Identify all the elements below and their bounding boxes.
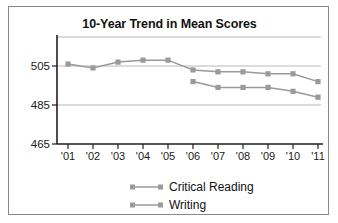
legend-marker-critical-reading-end: [158, 185, 163, 190]
chart-plot-area: 505 485 465 '01 '02 '03 '04 '05 '06 '07 …: [9, 7, 330, 216]
legend-marker-critical-reading-start: [130, 185, 135, 190]
data-point: [315, 79, 320, 84]
data-point: [315, 95, 320, 100]
data-point: [215, 85, 220, 90]
data-point: [240, 69, 245, 74]
xtick-label-09: '09: [261, 150, 275, 162]
xtick-label-07: '07: [211, 150, 225, 162]
legend-label-critical-reading: Critical Reading: [169, 180, 254, 194]
xtick-label-11: '11: [311, 150, 325, 162]
data-point: [240, 85, 245, 90]
data-point: [140, 58, 145, 63]
xtick-label-06: '06: [186, 150, 200, 162]
data-point: [265, 85, 270, 90]
chart-legend: Critical Reading Writing: [130, 180, 254, 212]
data-point: [115, 60, 120, 65]
data-point: [290, 71, 295, 76]
data-point: [165, 58, 170, 63]
data-point: [190, 79, 195, 84]
legend-marker-writing-end: [158, 203, 163, 208]
xtick-label-05: '05: [161, 150, 175, 162]
data-point: [265, 71, 270, 76]
chart-container: 10-Year Trend in Mean Scores 505 485 465…: [8, 6, 329, 215]
ytick-label-505: 505: [31, 60, 50, 72]
data-point: [290, 89, 295, 94]
data-point: [65, 61, 70, 66]
xtick-label-01: '01: [61, 150, 75, 162]
xtick-label-08: '08: [236, 150, 250, 162]
data-point: [190, 67, 195, 72]
legend-label-writing: Writing: [169, 198, 206, 212]
data-point: [90, 65, 95, 70]
xtick-label-10: '10: [286, 150, 300, 162]
xtick-label-04: '04: [136, 150, 150, 162]
xtick-label-03: '03: [111, 150, 125, 162]
legend-marker-writing-start: [130, 203, 135, 208]
series-group: [65, 58, 320, 100]
data-point: [215, 69, 220, 74]
series-line-1: [193, 82, 318, 98]
ytick-label-485: 485: [31, 99, 50, 111]
ytick-label-465: 465: [31, 138, 50, 150]
xtick-label-02: '02: [86, 150, 100, 162]
